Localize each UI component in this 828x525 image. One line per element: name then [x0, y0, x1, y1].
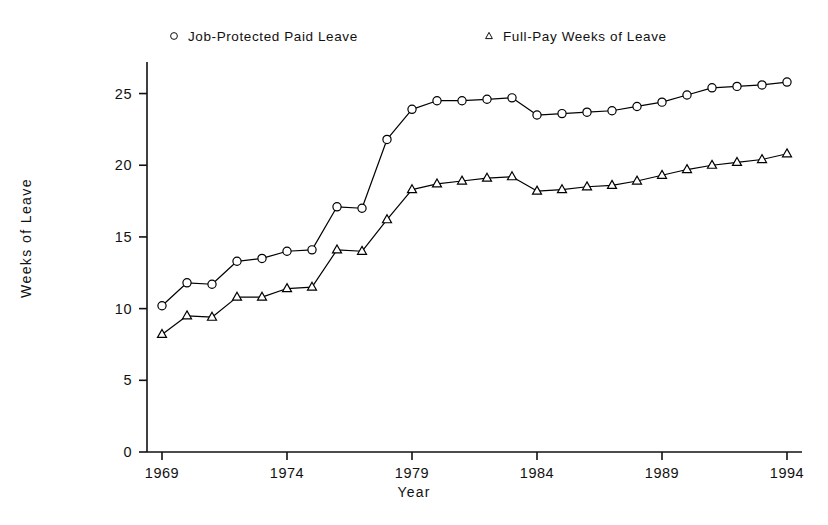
data-point-marker — [308, 246, 316, 254]
data-point-marker — [683, 91, 691, 99]
data-point-marker — [758, 81, 766, 89]
data-point-marker — [232, 292, 241, 300]
data-point-marker — [433, 97, 441, 105]
data-point-marker — [782, 149, 791, 157]
data-point-marker — [283, 247, 291, 255]
data-point-marker — [483, 95, 491, 103]
data-point-marker — [182, 311, 191, 319]
data-point-marker — [408, 105, 416, 113]
x-axis-tick-label: 1994 — [770, 465, 804, 481]
data-point-marker — [783, 78, 791, 86]
y-axis-tick-label: 25 — [60, 86, 132, 102]
data-point-marker — [358, 204, 366, 212]
data-point-marker — [208, 280, 216, 288]
series-full-pay-weeks-of-leave — [157, 149, 791, 338]
x-axis-tick-label: 1984 — [520, 465, 554, 481]
chart-figure: Job-Protected Paid Leave Full-Pay Weeks … — [0, 0, 828, 525]
series-line — [162, 154, 787, 335]
data-point-marker — [282, 284, 291, 292]
data-point-marker — [582, 182, 591, 190]
data-point-marker — [332, 245, 341, 253]
data-point-marker — [482, 173, 491, 181]
y-axis-tick-label: 15 — [60, 229, 132, 245]
data-point-marker — [658, 98, 666, 106]
data-point-marker — [458, 97, 466, 105]
data-point-marker — [558, 110, 566, 118]
x-axis-tick-label: 1974 — [270, 465, 304, 481]
y-axis-tick-label: 0 — [60, 444, 132, 460]
data-point-marker — [158, 302, 166, 310]
data-point-marker — [333, 203, 341, 211]
y-axis-tick-label: 20 — [60, 157, 132, 173]
data-point-marker — [383, 135, 391, 143]
x-axis-tick-label: 1979 — [395, 465, 429, 481]
series-job-protected-paid-leave — [158, 78, 791, 310]
y-axis-tick-label: 5 — [60, 372, 132, 388]
y-axis-title: Weeks of Leave — [18, 128, 34, 348]
data-point-marker — [583, 108, 591, 116]
series-layer — [157, 78, 791, 337]
data-point-marker — [157, 330, 166, 338]
data-point-marker — [533, 111, 541, 119]
data-point-marker — [633, 102, 641, 110]
x-axis-title: Year — [0, 484, 828, 500]
data-point-marker — [207, 312, 216, 320]
data-point-marker — [708, 84, 716, 92]
data-point-marker — [733, 82, 741, 90]
data-point-marker — [507, 172, 516, 180]
y-axis-tick-label: 10 — [60, 301, 132, 317]
data-point-marker — [608, 107, 616, 115]
x-axis-tick-label: 1969 — [145, 465, 179, 481]
series-line — [162, 82, 787, 306]
data-point-marker — [532, 186, 541, 194]
data-point-marker — [233, 257, 241, 265]
data-point-marker — [258, 254, 266, 262]
data-point-marker — [183, 279, 191, 287]
x-axis-tick-label: 1989 — [645, 465, 679, 481]
data-point-marker — [508, 94, 516, 102]
